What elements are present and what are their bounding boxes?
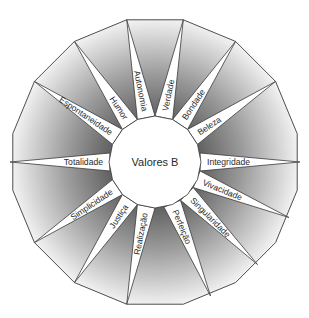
value-label: Totalidade [64, 157, 103, 167]
center-title: Valores B [132, 156, 179, 168]
value-label: Integridade [207, 157, 250, 167]
valores-b-diagram: VerdadeBondadeBelezaIntegridadeVivacidad… [0, 0, 309, 318]
values-wheel: VerdadeBondadeBelezaIntegridadeVivacidad… [0, 0, 309, 318]
